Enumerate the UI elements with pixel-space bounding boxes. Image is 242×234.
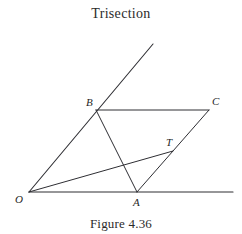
ray-o-through-b [29,44,153,192]
vertex-label-b: B [86,97,93,108]
vertex-label-a: A [133,197,140,208]
segment-o-t [29,151,173,192]
vertex-label-o: O [15,194,23,205]
vertex-label-t: T [166,137,172,148]
trisection-diagram [0,0,242,234]
segment-b-a [96,110,137,192]
figure-page: Trisection O A B C T Figure 4.36 [0,0,242,234]
vertex-label-c: C [212,96,219,107]
figure-caption: Figure 4.36 [0,216,242,232]
